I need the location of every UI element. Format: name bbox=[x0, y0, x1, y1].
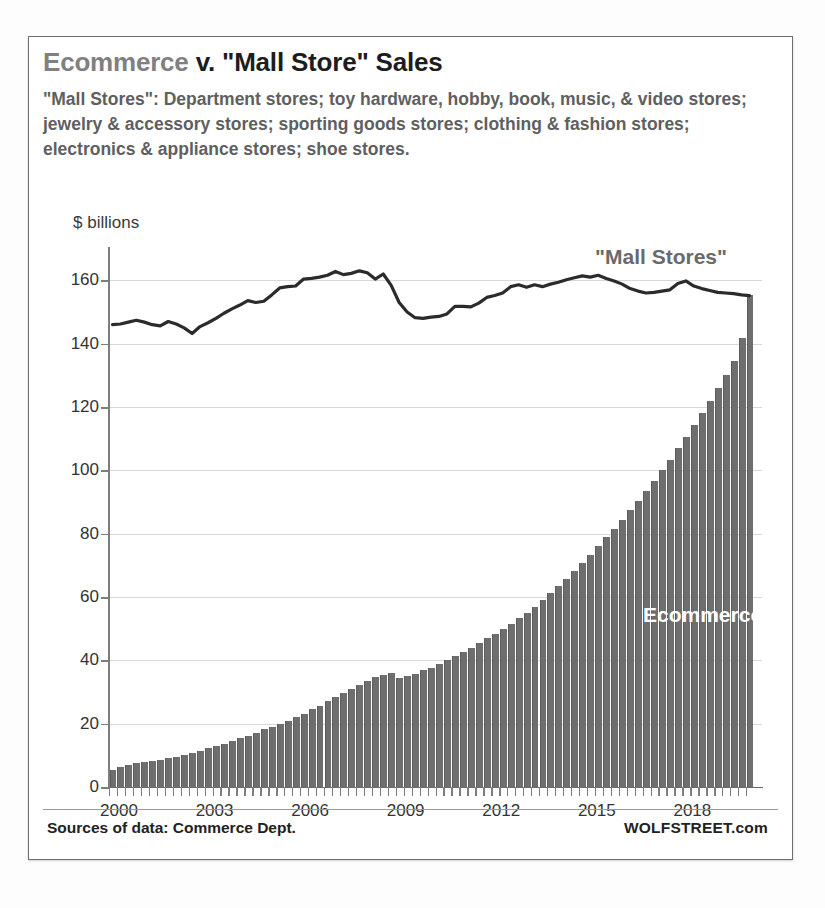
source-note: Sources of data: Commerce Dept. bbox=[47, 819, 296, 837]
x-tick bbox=[483, 787, 484, 796]
x-tick bbox=[308, 787, 309, 796]
x-tick bbox=[459, 787, 460, 796]
x-tick bbox=[651, 787, 652, 796]
x-tick bbox=[666, 787, 667, 796]
x-tick bbox=[324, 787, 325, 796]
x-tick bbox=[571, 787, 572, 796]
x-tick bbox=[635, 787, 636, 796]
x-tick bbox=[491, 787, 492, 796]
x-tick bbox=[165, 787, 166, 796]
y-tick-label: 40 bbox=[53, 650, 99, 670]
x-tick bbox=[698, 787, 699, 796]
x-tick bbox=[228, 787, 229, 796]
x-tick bbox=[714, 787, 715, 796]
x-tick bbox=[515, 787, 516, 796]
x-tick bbox=[706, 787, 707, 796]
x-tick-label: 2015 bbox=[578, 801, 616, 821]
ecommerce-label: Ecommerce bbox=[643, 603, 762, 627]
x-tick bbox=[428, 787, 429, 796]
plot-area: "Mall Stores" Ecommerce bbox=[109, 255, 762, 787]
y-tick-label: 80 bbox=[53, 524, 99, 544]
x-tick bbox=[579, 787, 580, 796]
x-tick bbox=[658, 787, 659, 796]
x-tick bbox=[730, 787, 731, 796]
y-tick-label: 60 bbox=[53, 587, 99, 607]
x-tick bbox=[149, 787, 150, 796]
brand-watermark: WOLFSTREET.com bbox=[624, 819, 768, 837]
x-tick bbox=[284, 787, 285, 796]
x-tick bbox=[603, 787, 604, 796]
x-tick bbox=[157, 787, 158, 796]
x-tick bbox=[507, 787, 508, 796]
x-tick bbox=[340, 787, 341, 796]
y-tick-label: 160 bbox=[53, 270, 99, 290]
x-tick bbox=[746, 787, 747, 796]
x-tick bbox=[475, 787, 476, 796]
x-tick bbox=[300, 787, 301, 796]
x-tick bbox=[133, 787, 134, 796]
x-tick bbox=[236, 787, 237, 796]
x-tick bbox=[348, 787, 349, 796]
x-tick bbox=[388, 787, 389, 796]
y-tick bbox=[101, 470, 110, 472]
footer-divider bbox=[43, 809, 778, 810]
x-tick bbox=[555, 787, 556, 796]
x-tick bbox=[173, 787, 174, 796]
y-tick bbox=[101, 597, 110, 599]
plot-area-wrapper: $ billions "Mall Stores" Ecommerce 02040… bbox=[29, 219, 792, 819]
x-tick-label: 2012 bbox=[482, 801, 520, 821]
x-tick-label: 2009 bbox=[387, 801, 425, 821]
x-tick bbox=[205, 787, 206, 796]
chart-page: Ecommerce v. "Mall Store" Sales "Mall St… bbox=[0, 0, 825, 908]
y-tick-label: 140 bbox=[53, 334, 99, 354]
y-tick bbox=[101, 660, 110, 662]
x-tick bbox=[316, 787, 317, 796]
x-tick bbox=[587, 787, 588, 796]
x-tick bbox=[396, 787, 397, 796]
y-tick-label: 20 bbox=[53, 714, 99, 734]
y-axis-title: $ billions bbox=[73, 213, 139, 233]
x-tick bbox=[364, 787, 365, 796]
chart-card: Ecommerce v. "Mall Store" Sales "Mall St… bbox=[28, 36, 793, 860]
x-tick bbox=[380, 787, 381, 796]
x-tick bbox=[619, 787, 620, 796]
x-tick bbox=[627, 787, 628, 796]
x-tick bbox=[674, 787, 675, 796]
title-dark-part: v. "Mall Store" Sales bbox=[189, 47, 443, 77]
y-tick bbox=[101, 534, 110, 536]
chart-subtitle: "Mall Stores": Department stores; toy ha… bbox=[43, 87, 773, 162]
x-tick bbox=[213, 787, 214, 796]
x-tick bbox=[244, 787, 245, 796]
x-tick bbox=[722, 787, 723, 796]
x-tick bbox=[436, 787, 437, 796]
x-tick bbox=[260, 787, 261, 796]
x-tick bbox=[372, 787, 373, 796]
x-tick bbox=[268, 787, 269, 796]
y-tick-label: 0 bbox=[53, 777, 99, 797]
x-tick bbox=[125, 787, 126, 796]
x-tick-label: 2018 bbox=[673, 801, 711, 821]
x-tick-label: 2003 bbox=[196, 801, 234, 821]
x-tick bbox=[332, 787, 333, 796]
y-axis-line bbox=[108, 247, 110, 787]
x-tick bbox=[611, 787, 612, 796]
x-tick bbox=[690, 787, 691, 796]
x-tick bbox=[738, 787, 739, 796]
title-gray-part: Ecommerce bbox=[43, 47, 189, 77]
x-tick bbox=[276, 787, 277, 796]
x-tick bbox=[189, 787, 190, 796]
x-tick-label: 2006 bbox=[291, 801, 329, 821]
x-tick bbox=[220, 787, 221, 796]
x-tick bbox=[197, 787, 198, 796]
x-tick bbox=[563, 787, 564, 796]
x-tick bbox=[356, 787, 357, 796]
x-tick bbox=[643, 787, 644, 796]
chart-title: Ecommerce v. "Mall Store" Sales bbox=[43, 47, 443, 78]
mall-stores-line-series bbox=[109, 255, 762, 787]
mall-stores-label: "Mall Stores" bbox=[595, 245, 727, 269]
x-tick bbox=[539, 787, 540, 796]
x-tick bbox=[141, 787, 142, 796]
x-tick bbox=[523, 787, 524, 796]
x-tick bbox=[109, 787, 110, 796]
x-tick bbox=[595, 787, 596, 796]
